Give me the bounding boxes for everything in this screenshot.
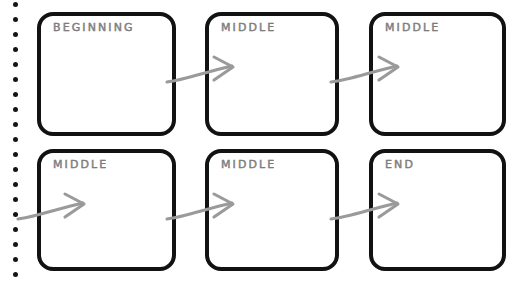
storyboard-frame-label: END <box>385 157 415 172</box>
binding-hole-dot <box>13 197 18 202</box>
storyboard-frame-label: BEGINNING <box>53 20 135 35</box>
storyboard-frame-drawing-area[interactable] <box>41 34 172 132</box>
storyboard-frame-drawing-area[interactable] <box>209 171 335 267</box>
binding-hole-dot <box>13 17 18 22</box>
storyboard-frame[interactable]: MIDDLE <box>205 149 339 271</box>
binding-hole-dot <box>13 272 18 277</box>
binding-hole-dot <box>13 152 18 157</box>
binding-hole-dot <box>13 47 18 52</box>
storyboard-page: BEGINNINGMIDDLEMIDDLEMIDDLEMIDDLEEND <box>0 0 518 288</box>
binding-hole-dot <box>13 2 18 7</box>
binding-hole-dot <box>13 257 18 262</box>
binding-hole-dot <box>13 227 18 232</box>
binding-hole-dot <box>13 77 18 82</box>
binding-hole-dot <box>13 212 18 217</box>
storyboard-frame-label: MIDDLE <box>385 20 440 35</box>
storyboard-frame-drawing-area[interactable] <box>373 171 502 267</box>
binding-hole-dot <box>13 122 18 127</box>
spiral-binding <box>0 0 34 288</box>
storyboard-frame-label: MIDDLE <box>221 157 276 172</box>
storyboard-frame[interactable]: MIDDLE <box>205 12 339 136</box>
binding-hole-dot <box>13 167 18 172</box>
binding-hole-dot <box>13 62 18 67</box>
binding-hole-dot <box>13 182 18 187</box>
binding-hole-dot <box>13 92 18 97</box>
storyboard-frame[interactable]: END <box>369 149 506 271</box>
storyboard-frame-drawing-area[interactable] <box>373 34 502 132</box>
storyboard-frame[interactable]: BEGINNING <box>37 12 176 136</box>
storyboard-frame-label: MIDDLE <box>53 157 108 172</box>
binding-hole-dot <box>13 107 18 112</box>
binding-hole-dot <box>13 32 18 37</box>
binding-hole-dot <box>13 137 18 142</box>
storyboard-frame-drawing-area[interactable] <box>41 171 172 267</box>
storyboard-frame[interactable]: MIDDLE <box>369 12 506 136</box>
binding-hole-dot <box>13 242 18 247</box>
storyboard-frame-label: MIDDLE <box>221 20 276 35</box>
storyboard-frame-drawing-area[interactable] <box>209 34 335 132</box>
storyboard-frame[interactable]: MIDDLE <box>37 149 176 271</box>
